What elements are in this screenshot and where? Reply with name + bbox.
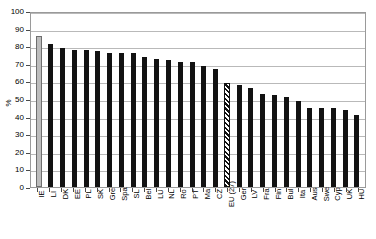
- bar: [60, 48, 65, 187]
- x-label-slot: Ita: [293, 193, 305, 239]
- bar: [331, 108, 336, 187]
- bar-slot: [92, 13, 104, 187]
- x-label-slot: Spa: [115, 193, 127, 239]
- bar-series: [31, 13, 365, 187]
- bar: [296, 101, 301, 187]
- bar-slot: [68, 13, 80, 187]
- x-label-slot: Swe: [317, 193, 329, 239]
- bar-slot: [80, 13, 92, 187]
- bar: [343, 110, 348, 187]
- bar: [201, 66, 206, 187]
- bar-slot: [127, 13, 139, 187]
- bar-slot: [351, 13, 363, 187]
- x-axis: IELIDKEEPLSKGreSpaSLBelLUNLRoPTMaCZEU (2…: [30, 188, 366, 239]
- x-label-slot: LI: [44, 193, 56, 239]
- y-axis-tick-label: 100: [0, 8, 24, 16]
- bar: [154, 59, 159, 187]
- y-axis-tick-label: 60: [0, 78, 24, 86]
- bar: [190, 62, 195, 187]
- bar-slot: [139, 13, 151, 187]
- bar-slot: [104, 13, 116, 187]
- y-axis-tick-label: 50: [0, 96, 24, 104]
- bar-slot: [304, 13, 316, 187]
- bar: [84, 50, 89, 187]
- x-label-slot: Bul: [281, 193, 293, 239]
- bar: [48, 44, 53, 187]
- bar-slot: [328, 13, 340, 187]
- y-axis-tick-label: 70: [0, 61, 24, 69]
- bar: [142, 57, 147, 187]
- x-label-slot: LV: [245, 193, 257, 239]
- x-label-slot: Ro: [174, 193, 186, 239]
- x-label-slot: UK: [340, 193, 352, 239]
- bar-slot: [245, 13, 257, 187]
- bar: [131, 53, 136, 187]
- x-label-slot: NL: [162, 193, 174, 239]
- bar-slot: [280, 13, 292, 187]
- bar-slot: [339, 13, 351, 187]
- bar-slot: [45, 13, 57, 187]
- bar-slot: [57, 13, 69, 187]
- bar-slot: [151, 13, 163, 187]
- bar: [307, 108, 312, 187]
- plot-area: [30, 12, 366, 188]
- x-label-slot: EE: [68, 193, 80, 239]
- x-label-slot: SK: [91, 193, 103, 239]
- x-label-slot: IE: [32, 193, 44, 239]
- bar-slot: [198, 13, 210, 187]
- y-axis-tick-label: 20: [0, 149, 24, 157]
- y-axis-tick-label: 80: [0, 43, 24, 51]
- bar-slot: [222, 13, 234, 187]
- bar: [36, 36, 42, 187]
- x-label-slot: Fin: [269, 193, 281, 239]
- x-label-slot: Aus: [305, 193, 317, 239]
- x-label-slot: Bel: [139, 193, 151, 239]
- x-label-slot: SL: [127, 193, 139, 239]
- bar: [224, 83, 230, 187]
- bar-slot: [292, 13, 304, 187]
- bar: [107, 53, 112, 187]
- x-label-slot: PT: [186, 193, 198, 239]
- x-label-slot: CZ: [210, 193, 222, 239]
- bar-slot: [115, 13, 127, 187]
- bar: [354, 115, 359, 187]
- bar-slot: [163, 13, 175, 187]
- x-label-slot: Gre: [103, 193, 115, 239]
- x-label-slot: HU: [352, 193, 364, 239]
- bar-slot: [269, 13, 281, 187]
- x-label-slot: Fra: [257, 193, 269, 239]
- bar: [166, 60, 171, 187]
- x-label-slot: EU (27): [222, 193, 234, 239]
- x-label-slot: Ma: [198, 193, 210, 239]
- bar-chart: % 1009080706050403020100 IELIDKEEPLSKGre…: [0, 0, 376, 239]
- bar-slot: [233, 13, 245, 187]
- x-label-slot: Cyp: [328, 193, 340, 239]
- bar: [213, 69, 218, 187]
- bar-slot: [186, 13, 198, 187]
- bar: [248, 88, 253, 187]
- x-axis-labels: IELIDKEEPLSKGreSpaSLBelLUNLRoPTMaCZEU (2…: [30, 193, 366, 239]
- x-label-slot: PL: [79, 193, 91, 239]
- y-axis-tick-label: 30: [0, 131, 24, 139]
- bar: [319, 108, 324, 187]
- x-label-slot: Ger: [234, 193, 246, 239]
- x-label-slot: DK: [56, 193, 68, 239]
- bar-slot: [33, 13, 45, 187]
- bar-slot: [174, 13, 186, 187]
- x-label-slot: LU: [151, 193, 163, 239]
- bar: [178, 62, 183, 187]
- bar-slot: [210, 13, 222, 187]
- bar: [284, 97, 289, 187]
- y-axis-tick-label: 0: [0, 184, 24, 192]
- bar: [95, 51, 100, 187]
- bar: [237, 85, 242, 187]
- bar: [272, 95, 277, 187]
- bar: [119, 53, 124, 187]
- x-axis-tick-label: HU: [358, 189, 366, 200]
- bar-slot: [257, 13, 269, 187]
- y-axis-tick-label: 90: [0, 26, 24, 34]
- bar-slot: [316, 13, 328, 187]
- bar: [72, 50, 77, 187]
- y-axis-tick-label: 40: [0, 114, 24, 122]
- bar: [260, 94, 265, 187]
